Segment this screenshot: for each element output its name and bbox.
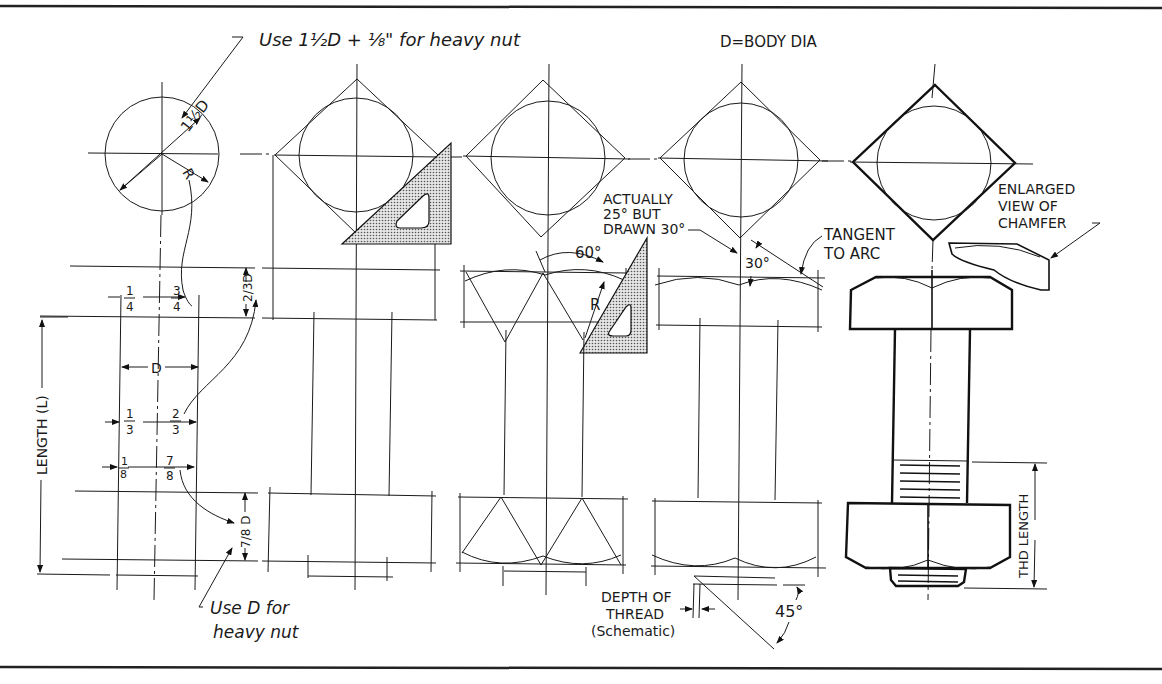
angle-45-label: 45° xyxy=(775,602,803,621)
svg-text:ACTUALLY: ACTUALLY xyxy=(603,191,673,207)
svg-text:DRAWN 30°: DRAWN 30° xyxy=(603,221,685,237)
svg-text:TANGENT: TANGENT xyxy=(823,226,896,244)
svg-text:TO ARC: TO ARC xyxy=(823,245,880,263)
step-2-square xyxy=(262,64,462,590)
three-quarter-num: 3 xyxy=(173,284,181,298)
r-label: R xyxy=(179,166,198,183)
step-4-chamfer: 30° 45° xyxy=(651,64,852,649)
depth-of-thread-note: DEPTH OF THREAD (Schematic) xyxy=(591,589,675,639)
angle-30-label: 30° xyxy=(745,255,770,271)
seven-eighth-num: 7 xyxy=(166,454,174,468)
heavy-nut-note-top-text: Use 1½D + ⅛" for heavy nut xyxy=(259,29,521,50)
svg-text:Use D for: Use D for xyxy=(210,598,290,618)
one-half-d-label: 1½D xyxy=(177,96,213,135)
svg-text:ENLARGED: ENLARGED xyxy=(998,181,1075,197)
step-3-arcs: 60° R xyxy=(456,64,660,595)
heavy-nut-note-top: Use 1½D + ⅛" for heavy nut xyxy=(259,29,521,50)
d-label: D xyxy=(151,360,162,376)
angle-60-label: 60° xyxy=(575,244,602,262)
length-label: LENGTH (L) xyxy=(34,395,50,475)
svg-text:VIEW OF: VIEW OF xyxy=(998,198,1058,214)
r-label-step3: R xyxy=(590,296,600,314)
tangent-note: TANGENT TO ARC xyxy=(801,226,896,274)
svg-text:(Schematic): (Schematic) xyxy=(591,623,675,639)
thread-lines xyxy=(893,460,968,498)
third-num: 1 xyxy=(126,407,134,421)
seven-eighth-den: 8 xyxy=(166,469,174,483)
two-third-num: 2 xyxy=(172,407,180,421)
thread-length-label: THD LENGTH xyxy=(1016,494,1031,579)
quarter-num: 1 xyxy=(126,284,134,298)
bolt-nut-drawing: 1½D R 1 4 3 4 2/3D D 1 3 xyxy=(0,0,1162,684)
eighth-den: 8 xyxy=(120,468,127,481)
step-5-finished-bolt: ENLARGED VIEW OF CHAMFER T xyxy=(846,64,1100,600)
svg-text:CHAMFER: CHAMFER xyxy=(998,215,1067,231)
quarter-den: 4 xyxy=(126,300,134,314)
two-thirds-d-label: 2/3D xyxy=(241,273,255,302)
two-third-den: 3 xyxy=(172,423,180,437)
svg-text:THREAD: THREAD xyxy=(605,606,664,622)
three-quarter-den: 4 xyxy=(173,300,181,314)
chamfer-angle-note: ACTUALLY 25° BUT DRAWN 30° xyxy=(603,191,737,253)
seven-eighths-d-label: 7/8 D xyxy=(239,516,253,548)
step-1-layout: 1½D R 1 4 3 4 2/3D D 1 3 xyxy=(34,37,272,607)
svg-text:DEPTH OF: DEPTH OF xyxy=(601,589,672,605)
svg-text:heavy nut: heavy nut xyxy=(213,622,300,642)
body-dia-label: D=BODY DIA xyxy=(720,33,818,51)
heavy-nut-note-bottom: Use D for heavy nut xyxy=(210,598,300,642)
third-den: 3 xyxy=(126,423,134,437)
eighth-num: 1 xyxy=(121,455,128,468)
svg-text:25° BUT: 25° BUT xyxy=(603,206,661,222)
